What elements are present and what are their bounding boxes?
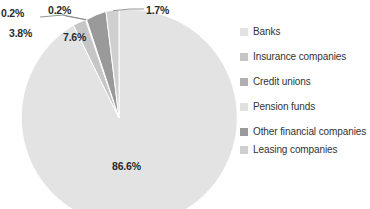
- legend-label-insurance-companies: Insurance companies: [253, 51, 346, 63]
- pie-plot-area: 86.6% 7.6% 3.8% 0.2% 0.2% 1.7%: [0, 0, 238, 209]
- legend-label-pension-funds: Pension funds: [253, 101, 315, 113]
- pie-svg: [0, 0, 238, 209]
- pie-chart-figure: 86.6% 7.6% 3.8% 0.2% 0.2% 1.7% Banks Ins…: [0, 0, 370, 209]
- pie-label-insurance: 3.8%: [9, 27, 32, 39]
- legend-item-insurance-companies[interactable]: Insurance companies: [240, 51, 370, 63]
- legend-item-other-financial-companies[interactable]: Other financial companies: [240, 126, 370, 138]
- legend-item-banks[interactable]: Banks: [240, 26, 370, 38]
- pie-label-banks: 86.6%: [112, 160, 141, 172]
- legend-swatch-other-financial-companies: [240, 128, 248, 136]
- pie-label-leasing: 1.7%: [146, 4, 169, 16]
- chart-legend: Banks Insurance companies Credit unions …: [240, 26, 370, 169]
- legend-swatch-banks: [240, 28, 248, 36]
- legend-item-credit-unions[interactable]: Credit unions: [240, 76, 370, 88]
- pie-label-pension-funds: 0.2%: [48, 4, 71, 16]
- legend-item-leasing-companies[interactable]: Leasing companies: [240, 144, 370, 156]
- legend-swatch-insurance-companies: [240, 53, 248, 61]
- legend-swatch-pension-funds: [240, 103, 248, 111]
- pie-label-other-financial: 7.6%: [63, 31, 86, 43]
- legend-label-other-financial-companies: Other financial companies: [253, 126, 366, 138]
- legend-label-banks: Banks: [253, 26, 280, 38]
- pie-slice-banks[interactable]: [21, 10, 237, 209]
- legend-label-leasing-companies: Leasing companies: [253, 144, 337, 156]
- pie-label-credit-unions: 0.2%: [1, 7, 24, 19]
- legend-swatch-credit-unions: [240, 78, 248, 86]
- legend-label-credit-unions: Credit unions: [253, 76, 311, 88]
- legend-item-pension-funds[interactable]: Pension funds: [240, 101, 370, 113]
- legend-swatch-leasing-companies: [240, 146, 248, 154]
